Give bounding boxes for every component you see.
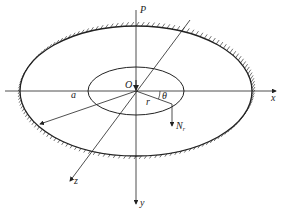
radius-a-arrow [40,91,136,124]
label-x: x [271,93,275,103]
label-y: y [140,198,144,208]
label-N-subscript: r [183,126,185,132]
label-N: N [176,120,183,131]
diagram-canvas: /* placeholder */ P O a r θ Nr x y z [0,0,284,216]
label-theta: θ [162,91,167,101]
clamped-edge-hatching: /* placeholder */ [18,22,255,159]
theta-arc [159,91,161,99]
label-P: P [140,5,146,15]
plate-diagram: /* placeholder */ [0,0,284,216]
label-a: a [71,90,76,100]
label-Nr: Nr [176,121,185,132]
label-r: r [146,97,150,107]
label-O: O [125,80,132,90]
label-z: z [74,176,78,186]
